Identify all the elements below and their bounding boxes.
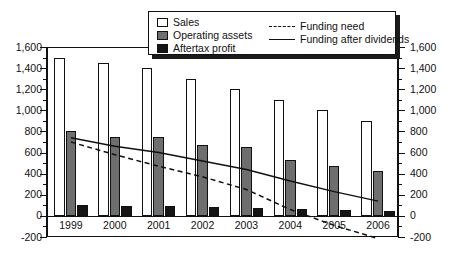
x-axis-label-2005: 2005 <box>314 220 354 231</box>
y-tick-label-right: 1,600 <box>410 42 436 52</box>
legend-item-funding-after-dividends: Funding after dividends <box>269 33 409 45</box>
legend-label-funding-need: Funding need <box>300 21 364 32</box>
y-tick-minor <box>398 184 402 185</box>
y-tick-label-left: 1,400 <box>16 63 42 73</box>
y-tick-minor <box>398 79 402 80</box>
y-tick-label-left: 1,600 <box>16 42 42 52</box>
y-tick-mark <box>398 216 405 217</box>
y-tick-minor <box>398 205 402 206</box>
y-tick-label-right: 200 <box>410 189 428 199</box>
legend-label-operating-assets: Operating assets <box>173 30 252 41</box>
y-tick-label-right: 600 <box>410 147 428 157</box>
y-tick-label-right: 1,400 <box>410 63 436 73</box>
legend-item-sales: Sales <box>157 16 252 28</box>
y-tick-label-right: 1,200 <box>410 84 436 94</box>
y-tick-label-left: -200 <box>21 232 42 242</box>
legend-swatch-operating-assets-icon <box>157 31 168 40</box>
y-tick-label-left: 600 <box>24 147 42 157</box>
x-axis-label-2006: 2006 <box>358 220 398 231</box>
legend-label-funding-after-dividends: Funding after dividends <box>300 34 409 45</box>
y-tick-minor <box>398 226 402 227</box>
y-tick-minor <box>398 142 402 143</box>
x-axis-label-2002: 2002 <box>183 220 223 231</box>
legend-item-operating-assets: Operating assets <box>157 29 252 41</box>
chart-container: 1,6001,6001,4001,4001,2001,2001,0001,000… <box>0 0 454 254</box>
legend-swatch-aftertax-profit-icon <box>157 44 168 53</box>
x-axis-label-2003: 2003 <box>226 220 266 231</box>
y-tick-label-right: 1,000 <box>410 105 436 115</box>
y-tick-mark <box>398 131 405 132</box>
legend-column-lines: Funding need Funding after dividends <box>269 20 409 46</box>
y-tick-label-right: 800 <box>410 126 428 136</box>
line-funding-after-dividends <box>71 138 378 201</box>
x-axis-label-2000: 2000 <box>95 220 135 231</box>
y-tick-mark <box>398 153 405 154</box>
x-axis-label-1999: 1999 <box>51 220 91 231</box>
y-tick-minor <box>398 163 402 164</box>
y-tick-label-left: 800 <box>24 126 42 136</box>
x-axis-label-2001: 2001 <box>139 220 179 231</box>
lines-layer <box>47 47 398 237</box>
y-tick-label-left: 400 <box>24 168 42 178</box>
y-tick-label-left: 200 <box>24 189 42 199</box>
legend-label-aftertax-profit: Aftertax profit <box>173 43 235 54</box>
legend-swatch-sales-icon <box>157 18 168 27</box>
y-tick-minor <box>398 100 402 101</box>
y-tick-minor <box>398 121 402 122</box>
y-tick-mark <box>398 195 405 196</box>
legend-label-sales: Sales <box>173 17 199 28</box>
y-tick-mark <box>398 68 405 69</box>
chart-legend: Sales Operating assets Aftertax profit F… <box>148 11 396 55</box>
y-tick-label-right: 400 <box>410 168 428 178</box>
y-tick-mark <box>398 110 405 111</box>
legend-line-dashed-icon <box>269 22 295 31</box>
legend-column-bars: Sales Operating assets Aftertax profit <box>157 16 252 55</box>
y-tick-label-left: 1,200 <box>16 84 42 94</box>
y-tick-label-left: 1,000 <box>16 105 42 115</box>
x-axis-label-2004: 2004 <box>270 220 310 231</box>
legend-item-aftertax-profit: Aftertax profit <box>157 42 252 54</box>
y-tick-mark <box>398 237 405 238</box>
y-tick-label-left: 0 <box>36 210 42 220</box>
zero-baseline <box>47 216 398 217</box>
y-tick-label-right: -200 <box>410 232 431 242</box>
legend-item-funding-need: Funding need <box>269 20 409 32</box>
legend-line-solid-icon <box>269 35 295 44</box>
y-tick-label-right: 0 <box>410 210 416 220</box>
y-tick-mark <box>398 89 405 90</box>
y-tick-mark <box>398 174 405 175</box>
